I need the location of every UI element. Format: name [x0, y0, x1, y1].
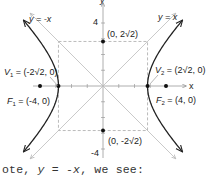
point-b1 [101, 39, 105, 43]
point-v2 [146, 84, 150, 88]
caption-var-y: y [38, 163, 45, 176]
caption-rest: = - [45, 163, 73, 176]
caption-text: ote, y = -x, we see: [2, 163, 144, 176]
label-f1: F1 = (-4, 0) [7, 96, 50, 107]
label-v2: V2 = (2√2, 0) [155, 65, 206, 76]
label-b1: (0, 2√2) [107, 29, 138, 39]
point-f1 [38, 84, 42, 88]
label-f1-rest: = (-4, 0) [16, 96, 50, 106]
label-f2-rest: = (4, 0) [165, 95, 196, 105]
hyperbola-figure: 4 -4 x y y = -x y = x (0, 2√2) (0, -2√2)… [0, 0, 207, 165]
label-b2: (0, -2√2) [108, 136, 142, 146]
asymptote-label-pos: y = x [157, 12, 178, 22]
asymptote-label-neg: y = -x [28, 14, 52, 24]
labels: 4 -4 x y y = -x y = x (0, 2√2) (0, -2√2)… [4, 0, 206, 158]
label-v1-rest: = (-2√2, 0) [13, 67, 57, 77]
label-f2: F2 = (4, 0) [156, 95, 196, 106]
point-f2 [164, 84, 168, 88]
label-v1: V1 = (-2√2, 0) [4, 67, 58, 78]
y-tick-neg4: -4 [91, 148, 99, 158]
point-b2 [101, 129, 105, 133]
x-axis-label: x [189, 81, 194, 91]
y-tick-4: 4 [93, 17, 98, 27]
label-v2-rest: = (2√2, 0) [164, 65, 205, 75]
leader-v2 [150, 75, 158, 84]
y-axis-label: y [99, 0, 105, 5]
leader-v1 [50, 77, 58, 86]
caption-prefix: ote, [2, 163, 38, 176]
caption-suffix: , we see: [80, 163, 144, 176]
